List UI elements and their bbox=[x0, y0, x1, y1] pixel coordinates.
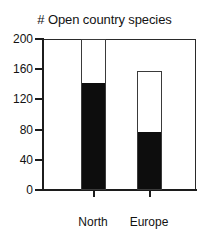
x-tick-label-europe-line1: Europe bbox=[119, 215, 179, 229]
y-tick-mark-160 bbox=[35, 68, 42, 70]
x-tick-mark-north-america bbox=[93, 190, 95, 197]
y-tick-label-0: 0 bbox=[0, 184, 33, 196]
y-tick-label-40: 40 bbox=[0, 154, 33, 166]
x-tick-mark-europe bbox=[149, 190, 151, 197]
y-tick-mark-120 bbox=[35, 98, 42, 100]
x-tick-label-north-america: North America bbox=[63, 201, 123, 239]
bar-north-america bbox=[81, 39, 106, 190]
bar-europe-filled-segment bbox=[138, 132, 161, 189]
y-tick-label-160: 160 bbox=[0, 63, 33, 75]
bar-chart: # Open country species 200 160 120 80 40… bbox=[0, 0, 209, 239]
x-axis-line bbox=[42, 189, 197, 191]
bar-europe bbox=[137, 71, 162, 190]
y-tick-mark-40 bbox=[35, 159, 42, 161]
y-tick-mark-80 bbox=[35, 129, 42, 131]
y-tick-label-200: 200 bbox=[0, 33, 33, 45]
y-tick-label-120: 120 bbox=[0, 93, 33, 105]
bar-north-america-filled-segment bbox=[82, 83, 105, 189]
plot-area bbox=[42, 39, 196, 190]
y-tick-mark-0 bbox=[35, 189, 42, 191]
x-tick-label-europe: Europe bbox=[119, 201, 179, 239]
chart-title: # Open country species bbox=[0, 12, 209, 28]
y-tick-mark-200 bbox=[35, 38, 42, 40]
y-axis-line bbox=[42, 38, 44, 191]
y-tick-label-80: 80 bbox=[0, 124, 33, 136]
x-tick-label-north-america-line1: North bbox=[63, 215, 123, 229]
